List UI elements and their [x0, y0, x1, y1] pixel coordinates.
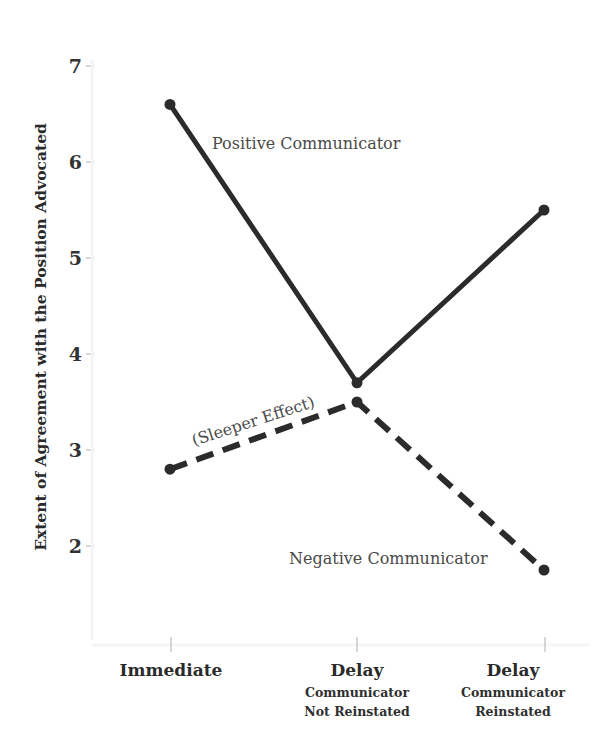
y-axis-label: Extent of Agreement with the Position Ad…: [31, 123, 50, 551]
data-point-marker: [165, 99, 176, 110]
y-axis: 7 6 5 4 3 2: [69, 55, 94, 640]
y-tick-label-7: 7: [69, 55, 82, 77]
x-axis: Immediate Delay Communicator Not Reinsta…: [92, 637, 590, 719]
x-sublabel-delay-1-line1: Communicator: [305, 685, 409, 700]
y-tick-label-4: 4: [69, 343, 82, 365]
x-sublabel-delay-2-line2: Reinstated: [475, 704, 551, 719]
y-tick-label-2: 2: [69, 535, 82, 557]
data-point-marker: [539, 205, 550, 216]
y-tick-label-5: 5: [69, 247, 82, 269]
line-chart: Extent of Agreement with the Position Ad…: [0, 0, 606, 745]
y-tick-label-6: 6: [69, 151, 82, 173]
data-point-marker: [352, 377, 363, 388]
x-label-delay-2: Delay: [487, 660, 541, 680]
x-sublabel-delay-2-line1: Communicator: [461, 685, 565, 700]
label-positive-communicator: Positive Communicator: [212, 134, 401, 153]
data-point-marker: [165, 464, 176, 475]
x-label-delay-1: Delay: [331, 660, 385, 680]
label-negative-communicator: Negative Communicator: [289, 549, 488, 568]
x-label-immediate: Immediate: [120, 660, 223, 680]
data-point-marker: [352, 397, 363, 408]
y-tick-label-3: 3: [69, 439, 82, 461]
x-sublabel-delay-1-line2: Not Reinstated: [304, 704, 410, 719]
data-point-marker: [539, 565, 550, 576]
